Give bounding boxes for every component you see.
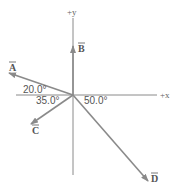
vector-diagram: +x +y B A C D 20.0° 35.0° 50.0°: [0, 0, 182, 189]
vector-c-label: C: [32, 125, 39, 136]
angle-label-a: 20.0°: [23, 84, 46, 95]
angle-label-c: 35.0°: [36, 95, 59, 106]
vector-b-label: B: [78, 43, 85, 54]
angle-label-d: 50.0°: [84, 95, 107, 106]
vector-a-label: A: [9, 62, 17, 73]
y-axis-label: +y: [67, 7, 77, 17]
vector-d-arrow: [73, 95, 148, 181]
vector-d-label: D: [151, 173, 158, 184]
x-axis-label: +x: [160, 90, 170, 100]
